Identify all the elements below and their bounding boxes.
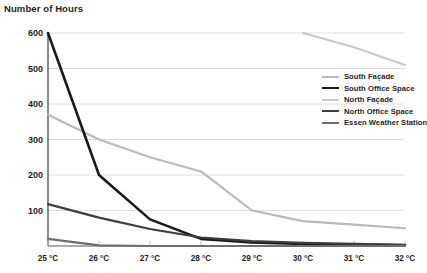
x-tick-label: 30 °C [293,254,314,263]
legend-label: North Façade [344,95,393,104]
x-tick-label: 31 °C [344,254,365,263]
y-tick-label: 100 [28,206,43,216]
legend-item[interactable]: North Office Space [322,107,427,116]
legend-label: South Office Space [344,84,415,93]
legend-swatch-icon [322,110,339,112]
x-tick-label: 32 °C [395,254,416,263]
legend-item[interactable]: South Façade [322,72,427,81]
x-tick-label: 28 °C [191,254,212,263]
y-tick-label: 300 [28,135,43,145]
chart-canvas [48,33,405,246]
x-tick-label: 29 °C [242,254,263,263]
legend-item[interactable]: North Façade [322,95,427,104]
legend-swatch-icon [322,122,339,124]
legend-item[interactable]: South Office Space [322,84,427,93]
plot-area: 100200300400500600 25 °C26 °C27 °C28 °C2… [48,33,405,246]
y-tick-label: 200 [28,170,43,180]
y-axis-title: Number of Hours [4,3,83,14]
legend-swatch-icon [322,76,339,78]
x-tick-label: 26 °C [89,254,110,263]
y-tick-label: 600 [28,28,43,38]
x-tick-label: 27 °C [140,254,161,263]
legend-label: South Façade [344,72,394,81]
legend-item[interactable]: Essen Weather Station [322,118,427,127]
chart-legend: South FaçadeSouth Office SpaceNorth Faça… [322,72,427,127]
y-tick-label: 500 [28,64,43,74]
legend-swatch-icon [322,87,339,89]
legend-label: North Office Space [344,107,413,116]
x-tick-label: 25 °C [38,254,59,263]
y-tick-label: 400 [28,99,43,109]
legend-label: Essen Weather Station [344,118,427,127]
legend-swatch-icon [322,99,339,101]
